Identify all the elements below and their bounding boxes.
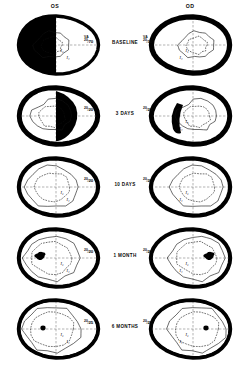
visual-acuity-os: 20⁄25 [84,320,93,326]
isopter-label-i4: I₄ [179,339,183,344]
visual-acuity-os: 20⁄20 [84,178,93,184]
dense-scotoma-fill [14,16,56,74]
isopter-label-i4: I₄ [179,126,183,131]
chart-cell-od: I₂I₄ [143,294,243,364]
timepoint-label: 10 DAYS [96,182,154,187]
timepoint-row: I₂I₄I₂I₄20⁄2020⁄203 DAYS [0,81,249,151]
visual-field-progression-figure: OS OD I₂I₄I₂I₄VA20⁄70VA20⁄30BASELINEI₂I₄… [0,0,249,369]
va-fraction: 20⁄20 [84,249,93,255]
isopter-label-i2: I₂ [60,332,64,337]
isopter-contour-i4 [24,165,78,206]
chart-cell-os: I₂I₄ [6,294,106,364]
chart-cell-od: I₂I₄ [143,10,243,80]
arcuate-scotoma-fill [56,91,77,141]
isopter-label-i2: I₂ [185,119,189,124]
isopter-label-i4: I₄ [179,268,183,273]
visual-field-chart-os: I₂I₄ [6,294,106,364]
column-header-os: OS [35,3,75,9]
isopter-contour-i4 [169,165,223,206]
isopter-label-i2: I₂ [60,48,64,53]
isopter-label-i2: I₂ [185,48,189,53]
chart-cell-os: I₂I₄ [6,81,106,151]
visual-field-chart-od: I₂I₄ [143,223,243,293]
va-fraction: 20⁄20 [84,107,93,113]
chart-cell-os: I₂I₄ [6,152,106,222]
timepoint-row: I₂I₄I₂I₄VA20⁄70VA20⁄30BASELINE [0,10,249,80]
timepoint-row: I₂I₄I₂I₄20⁄2020⁄2010 DAYS [0,152,249,222]
va-fraction: 20⁄20 [84,178,93,184]
chart-cell-od: I₂I₄ [143,81,243,151]
va-denominator: 20 [88,107,93,112]
va-denominator: 70 [88,40,93,45]
visual-field-chart-os: I₂I₄ [6,223,106,293]
isopter-label-i2: I₂ [185,190,189,195]
column-header-od: OD [170,3,210,9]
isopter-label-i4: I₄ [66,197,70,202]
visual-field-chart-od: I₂I₄ [143,294,243,364]
isopter-label-i4: I₄ [66,268,70,273]
visual-field-chart-od: I₂I₄ [143,152,243,222]
visual-acuity-os: 20⁄20 [84,107,93,113]
isopter-contour-i2 [34,173,70,202]
va-fraction: 20⁄25 [84,320,93,326]
enlarged-blind-spot [203,252,214,260]
timepoint-label: BASELINE [96,40,154,45]
chart-cell-od: I₂I₄ [143,223,243,293]
isopter-contour-i2 [186,36,207,55]
enlarged-blind-spot [34,252,45,260]
isopter-label-i4: I₄ [66,126,70,131]
visual-field-chart-os: I₂I₄ [6,152,106,222]
chart-cell-os: I₂I₄ [6,223,106,293]
isopter-label-i2: I₂ [60,119,64,124]
isopter-label-i4: I₄ [179,197,183,202]
visual-acuity-os: VA20⁄70 [84,36,93,45]
visual-field-chart-od: I₂I₄ [143,81,243,151]
isopter-label-i4: I₄ [66,55,70,60]
isopter-label-i2: I₂ [185,261,189,266]
isopter-label-i4: I₄ [66,339,70,344]
isopter-contour-i2 [184,106,211,127]
isopter-label-i4: I₄ [179,55,183,60]
chart-cell-od: I₂I₄ [143,152,243,222]
va-denominator: 20 [88,178,93,183]
isopter-label-i2: I₂ [185,332,189,337]
va-denominator: 20 [88,249,93,254]
visual-field-chart-od: I₂I₄ [143,10,243,80]
timepoint-label: 6 MONTHS [96,324,154,329]
visual-field-chart-os: I₂I₄ [6,81,106,151]
visual-acuity-os: 20⁄20 [84,249,93,255]
physiologic-blind-spot [203,326,208,331]
timepoint-label: 3 DAYS [96,111,154,116]
isopter-contour-i2 [179,173,215,202]
isopter-label-i2: I₂ [60,261,64,266]
timepoint-row: I₂I₄I₂I₄20⁄2520⁄256 MONTHS [0,294,249,364]
isopter-label-i2: I₂ [60,190,64,195]
timepoint-label: 1 MONTH [96,253,154,258]
va-denominator: 25 [88,320,93,325]
physiologic-blind-spot [40,326,45,331]
timepoint-row: I₂I₄I₂I₄20⁄2020⁄201 MONTH [0,223,249,293]
va-fraction: 20⁄70 [84,39,93,45]
